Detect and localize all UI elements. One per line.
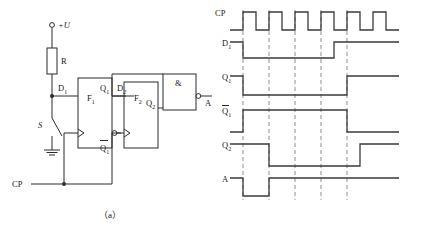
timing-waveforms: [230, 12, 399, 196]
timing-label-D1: D1: [222, 38, 231, 50]
cp-to-f2-wire: [112, 133, 124, 184]
timing-label-Q2: Q2: [222, 140, 231, 152]
switch-blade: [52, 118, 62, 136]
circuit-diagram: +U R D1 S F1: [0, 0, 215, 205]
resistor-label: R: [61, 56, 67, 66]
waveform-A: [230, 178, 399, 196]
waveform-CP: [230, 12, 399, 30]
waveform-Q1bar: [230, 110, 399, 132]
flipflop-f1-clock-triangle-icon: [78, 129, 84, 137]
switch-label: S: [38, 120, 43, 130]
timing-panel: CPD1Q1Q1Q2A （b）: [212, 0, 427, 243]
and-gate-symbol-label: &: [175, 78, 182, 88]
timing-label-Q1: Q1: [222, 72, 231, 84]
timing-label-A: A: [222, 174, 229, 184]
q2-label: Q2: [146, 98, 155, 110]
supply-label: +U: [58, 20, 71, 30]
caption-a: （a）: [80, 208, 140, 221]
waveform-D1: [230, 42, 399, 58]
resistor-body: [47, 48, 57, 74]
flipflop-f2-label: F2: [134, 93, 142, 105]
cp-label: CP: [12, 179, 23, 189]
timing-label-Q1bar: Q1: [222, 106, 231, 118]
q1bar-label: Q1: [100, 143, 109, 155]
supply-terminal-icon: [50, 23, 55, 28]
flipflop-f2-clock-triangle-icon: [124, 129, 130, 137]
figure-root: +U R D1 S F1: [0, 0, 427, 243]
cp-to-f1-wire: [64, 133, 78, 184]
waveform-Q2: [230, 144, 399, 166]
flipflop-f2-body: [124, 82, 158, 148]
flipflop-f1-label: F1: [87, 93, 95, 105]
timing-label-CP: CP: [215, 8, 226, 18]
q1-label: Q1: [100, 83, 109, 95]
d1-label: D1: [58, 83, 67, 95]
gate-invert-bubble-icon: [196, 94, 201, 99]
timing-diagram: CPD1Q1Q1Q2A: [212, 0, 427, 205]
timing-marker-lines: [243, 10, 347, 200]
timing-row-labels: CPD1Q1Q1Q2A: [215, 8, 231, 184]
d2-label: D2: [117, 83, 126, 95]
waveform-Q1: [230, 76, 399, 95]
output-a-label: A: [205, 98, 212, 108]
circuit-panel: +U R D1 S F1: [0, 0, 215, 243]
